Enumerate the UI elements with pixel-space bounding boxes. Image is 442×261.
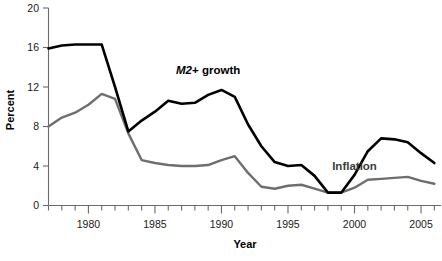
x-axis-title: Year (233, 238, 257, 250)
y-tick-label: 4 (33, 160, 39, 172)
x-tick-label: 2005 (409, 218, 433, 230)
y-tick-label: 0 (33, 199, 39, 211)
y-tick-label: 16 (27, 41, 39, 53)
y-tick-label: 12 (27, 81, 39, 93)
x-tick-label: 1990 (210, 218, 234, 230)
x-tick-label: 1985 (143, 218, 167, 230)
chart-container: 048121620 198019851990199520002005 Perce… (0, 0, 442, 261)
y-axis-title: Percent (4, 89, 16, 130)
x-tick-label: 2000 (343, 218, 367, 230)
x-tick-label: 1980 (77, 218, 101, 230)
x-tick-label: 1995 (276, 218, 300, 230)
y-tick-label: 8 (33, 120, 39, 132)
line-chart: 048121620 198019851990199520002005 Perce… (0, 0, 442, 261)
m2-growth-series-label: M2+ growth (176, 64, 240, 76)
y-tick-label: 20 (27, 2, 39, 14)
inflation-series-label: Inflation (332, 160, 377, 172)
